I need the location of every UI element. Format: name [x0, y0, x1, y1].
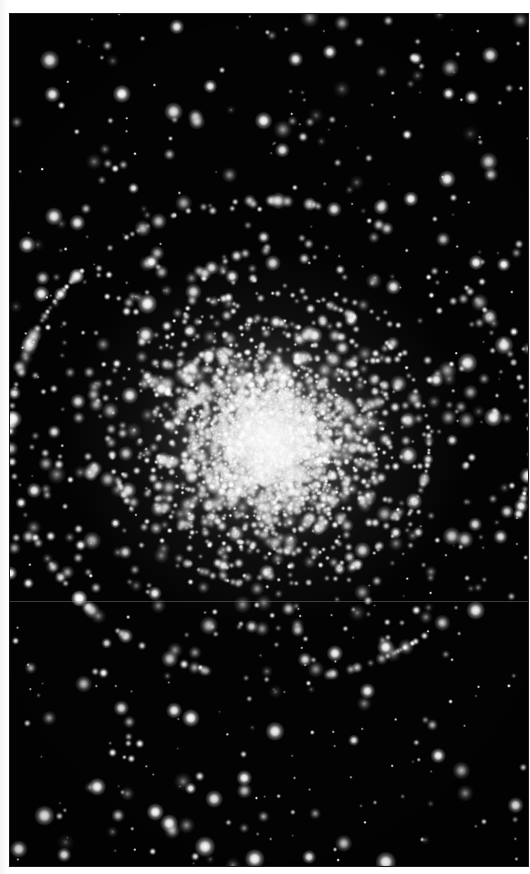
globular-cluster-image — [10, 14, 528, 866]
plate-caption — [10, 866, 528, 874]
star-field-canvas — [10, 14, 528, 866]
page-root — [0, 0, 530, 874]
